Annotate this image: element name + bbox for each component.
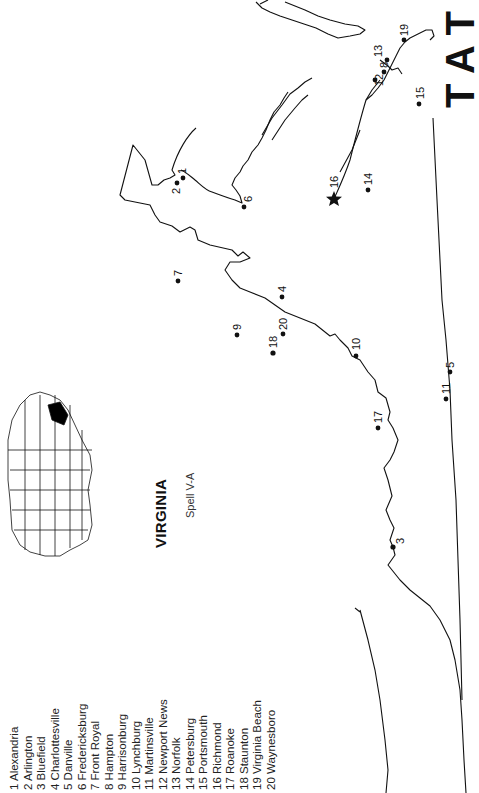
legend-item: 1 Alexandria <box>8 699 22 790</box>
city-legend: 1 Alexandria 2 Arlington 3 Bluefield 4 C… <box>8 699 278 790</box>
eastern-shore <box>256 2 365 38</box>
potomac-river <box>181 92 288 203</box>
legend-item: 13 Norfolk <box>170 699 184 790</box>
legend-item: 3 Bluefield <box>35 699 49 790</box>
svg-text:5: 5 <box>444 362 456 368</box>
legend-item: 15 Portsmouth <box>197 699 211 790</box>
city-markers <box>175 38 453 550</box>
state-border-west <box>120 128 466 793</box>
map-subtitle: Spell V-A <box>184 473 196 518</box>
svg-text:12: 12 <box>373 74 385 86</box>
legend-item: 19 Virginia Beach <box>251 699 265 790</box>
legend-item: 20 Waynesboro <box>265 699 279 790</box>
legend-item: 7 Front Royal <box>89 699 103 790</box>
virginia-highlight <box>48 402 68 425</box>
state-border-south <box>433 118 462 700</box>
legend-item: 10 Lynchburg <box>130 699 144 790</box>
svg-text:3: 3 <box>394 538 406 544</box>
svg-text:17: 17 <box>372 411 384 423</box>
svg-text:1: 1 <box>176 168 188 174</box>
legend-item: 18 Staunton <box>238 699 252 790</box>
legend-item: 11 Martinsville <box>143 699 157 790</box>
svg-text:19: 19 <box>398 24 410 36</box>
legend-item: 2 Arlington <box>22 699 36 790</box>
legend-item: 17 Roanoke <box>224 699 238 790</box>
svg-text:6: 6 <box>242 196 254 202</box>
svg-text:11: 11 <box>440 383 452 394</box>
svg-text:14: 14 <box>362 173 374 185</box>
map-title: VIRGINIA <box>152 479 169 548</box>
legend-item: 6 Fredericksburg <box>76 699 90 790</box>
svg-text:13: 13 <box>372 45 384 57</box>
legend-item: 16 Richmond <box>211 699 225 790</box>
svg-text:7: 7 <box>172 270 184 276</box>
svg-text:9: 9 <box>231 324 243 330</box>
legend-item: 12 Newport News <box>157 699 171 790</box>
svg-text:4: 4 <box>276 286 288 292</box>
city-labels: 1 2 3 4 5 6 7 8 9 10 11 12 13 14 15 16 1… <box>170 24 456 544</box>
legend-item: 5 Danville <box>62 699 76 790</box>
legend-item: 4 Charlottesville <box>49 699 63 790</box>
legend-item: 14 Petersburg <box>184 699 198 790</box>
legend-item: 8 Hampton <box>103 699 117 790</box>
svg-text:18: 18 <box>267 336 279 348</box>
svg-text:20: 20 <box>277 318 289 330</box>
capital-star-icon <box>326 191 342 206</box>
svg-text:15: 15 <box>414 87 426 99</box>
svg-text:2: 2 <box>170 188 182 194</box>
state-border-southwest <box>360 610 388 793</box>
legend-item: 9 Harrisonburg <box>116 699 130 790</box>
svg-text:8: 8 <box>378 62 390 68</box>
svg-text:10: 10 <box>350 338 362 350</box>
us-inset-map <box>8 392 92 556</box>
svg-text:16: 16 <box>328 176 340 188</box>
